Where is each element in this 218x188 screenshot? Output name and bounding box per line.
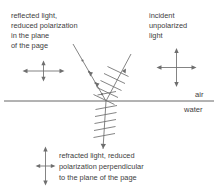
incident-label-line-2: unpolarized <box>149 21 187 30</box>
reflected-ray <box>73 44 106 101</box>
refracted-light-label: refracted light, reduced polarization pe… <box>59 151 144 182</box>
incident-polarization-symbol <box>157 48 197 87</box>
incident-light-label: incident unpolarized light <box>149 11 187 40</box>
refracted-ray-arrowhead <box>101 144 106 149</box>
refracted-label-line-3: to the plane of the page <box>59 173 137 182</box>
incident-label-line-1: incident <box>149 11 174 20</box>
reflected-label-line-4: of the page <box>11 41 48 50</box>
incident-ray-polarization-ticks <box>94 67 129 105</box>
reflected-label-line-1: reflected light, <box>11 11 57 20</box>
incident-label-line-3: light <box>149 31 163 40</box>
refracted-polarization-symbol <box>36 147 56 186</box>
water-label: water <box>183 105 203 114</box>
refracted-label-line-1: refracted light, reduced <box>59 151 135 160</box>
reflected-label-line-3: in the plane <box>11 31 49 40</box>
incident-ray <box>94 54 132 105</box>
reflected-polarization-symbol <box>23 61 65 82</box>
air-label: air <box>195 90 204 99</box>
reflected-label-line-2: reduced polarization <box>11 21 78 30</box>
reflected-light-label: reflected light, reduced polarization in… <box>11 11 78 50</box>
figure-svg: reflected light, reduced polarization in… <box>0 0 218 188</box>
polarization-diagram: reflected light, reduced polarization in… <box>0 0 218 188</box>
refracted-label-line-2: polarization perpendicular <box>59 162 144 171</box>
